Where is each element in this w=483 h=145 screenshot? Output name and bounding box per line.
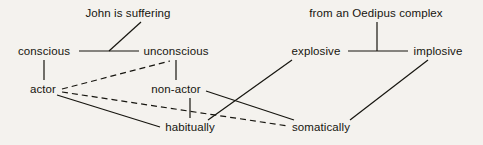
node-actor: actor	[30, 83, 56, 95]
node-from-an-oedipus-complex: from an Oedipus complex	[309, 7, 442, 19]
node-explosive: explosive	[292, 45, 341, 57]
node-non-actor: non-actor	[151, 83, 200, 95]
node-unconscious: unconscious	[143, 45, 208, 57]
diagram-canvas: John is suffering from an Oedipus comple…	[0, 0, 483, 145]
node-conscious: conscious	[18, 45, 70, 57]
edge-actor-habitually	[57, 95, 160, 127]
edge-john-is-suffering-to-axis	[109, 22, 141, 51]
node-somatically: somatically	[292, 121, 350, 133]
node-john-is-suffering: John is suffering	[85, 7, 170, 19]
edge-non-actor-somatically	[206, 91, 294, 120]
edge-implosive-somatically	[350, 60, 428, 120]
node-habitually: habitually	[165, 121, 215, 133]
node-implosive: implosive	[414, 45, 463, 57]
edge-explosive-habitually	[208, 60, 292, 120]
diagram-edge-layer	[0, 0, 483, 145]
